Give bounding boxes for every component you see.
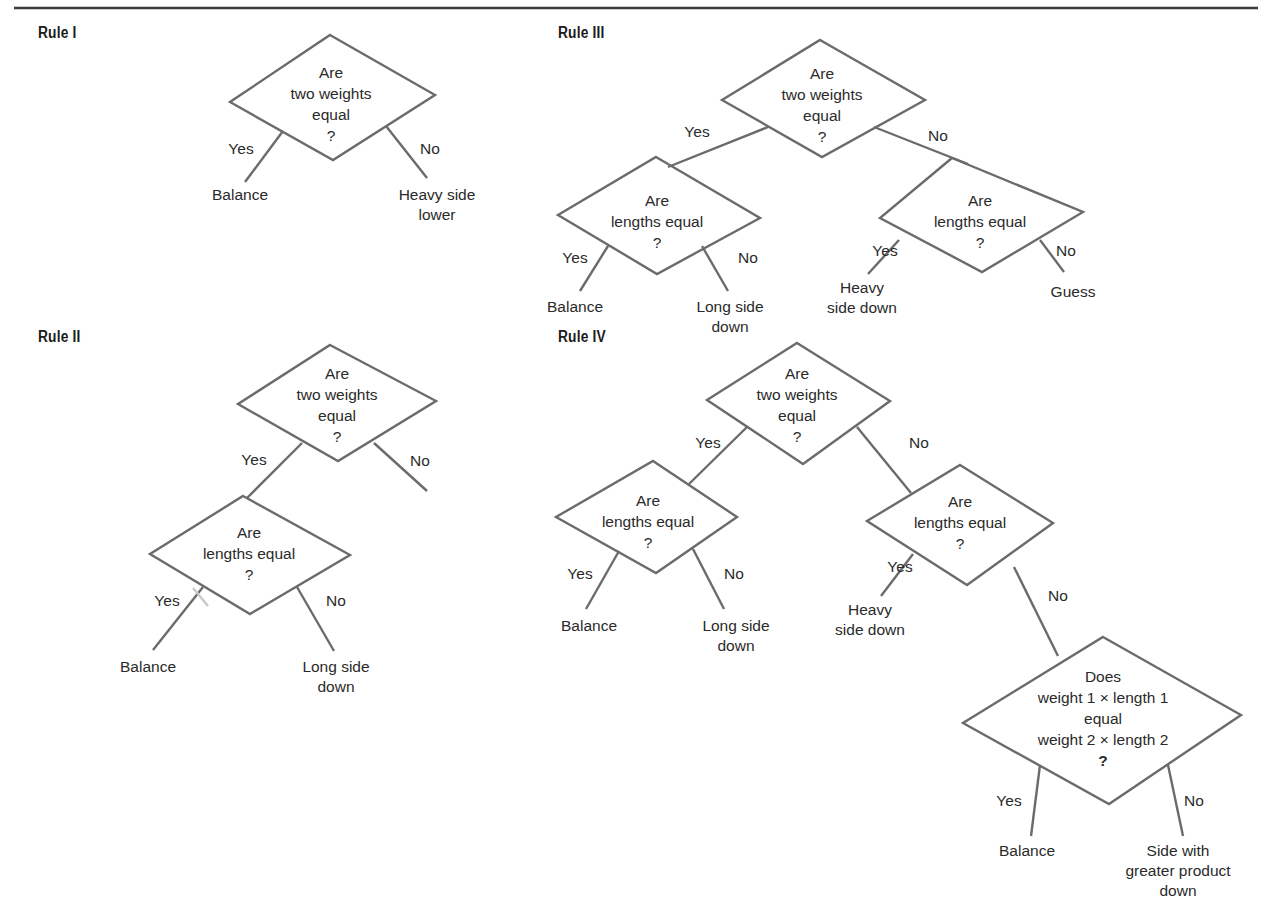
outcome-label-line: Heavy <box>840 279 884 296</box>
branch-label-yes: Yes <box>562 249 588 266</box>
branch-label-no: No <box>724 565 744 582</box>
decision-question-line: ? <box>956 535 965 552</box>
branch-connector <box>702 246 728 291</box>
branch-label-no: No <box>326 592 346 609</box>
decision-question-line: two weights <box>297 386 378 403</box>
decision-question-line: two weights <box>757 386 838 403</box>
decision-question-line: Are <box>810 65 834 82</box>
outcome-label-line: Balance <box>120 658 176 675</box>
rules-layer: YesNoAretwo weightsequal?BalanceHeavy si… <box>120 35 1241 899</box>
decision-question: Arelengths equal? <box>934 192 1026 251</box>
branch-label-yes: Yes <box>567 565 593 582</box>
decision-question-line: ? <box>644 534 653 551</box>
rule-1-title: Rule I <box>38 24 76 42</box>
decision-question-line: ? <box>245 566 254 583</box>
outcome-label-line: Balance <box>547 298 603 315</box>
decision-question-line: lengths equal <box>914 514 1006 531</box>
outcome-label: Balance <box>561 617 617 634</box>
decision-question-line: Are <box>785 365 809 382</box>
outcome-label: Long sidedown <box>696 298 763 335</box>
outcome-label-line: down <box>317 678 354 695</box>
outcome-label-line: down <box>1159 882 1196 899</box>
decision-question-line: lengths equal <box>602 513 694 530</box>
decision-question-line: Are <box>968 192 992 209</box>
outcome-label-line: side down <box>827 299 897 316</box>
decision-question-line: equal <box>318 407 356 424</box>
decision-question-line: Are <box>319 64 343 81</box>
decision-question-line: Are <box>325 365 349 382</box>
decision-question-line: lengths equal <box>934 213 1026 230</box>
decision-question: Arelengths equal? <box>602 492 694 551</box>
decision-question-line: ? <box>327 127 336 144</box>
outcome-label: Heavyside down <box>827 279 897 316</box>
outcome-label: Guess <box>1051 283 1096 300</box>
decision-question-line: ? <box>333 428 342 445</box>
outcome-label-line: lower <box>418 206 455 223</box>
outcome-label-line: Heavy side <box>399 186 476 203</box>
rule-2-tree: YesNoYesNoAretwo weightsequal?Arelengths… <box>120 345 436 695</box>
outcome-label-line: Balance <box>561 617 617 634</box>
outcome-label: Balance <box>547 298 603 315</box>
outcome-label: Balance <box>212 186 268 203</box>
outcome-label-line: side down <box>835 621 905 638</box>
branch-label-yes: Yes <box>684 123 710 140</box>
outcome-label-line: Long side <box>696 298 763 315</box>
branch-connector <box>668 127 768 167</box>
branch-connector <box>693 549 724 609</box>
decision-diamond-r4-weights <box>707 343 890 464</box>
outcome-label-line: Heavy <box>848 601 892 618</box>
outcome-label: Long sidedown <box>302 658 369 695</box>
decision-question-line: Does <box>1085 668 1121 685</box>
branch-label-yes: Yes <box>872 242 898 259</box>
outcome-label-line: down <box>711 318 748 335</box>
decision-tree-figure: YesNoAretwo weightsequal?BalanceHeavy si… <box>0 0 1270 920</box>
branch-connector <box>857 427 911 493</box>
outcome-label: Side withgreater productdown <box>1125 842 1231 899</box>
branch-label-no: No <box>928 127 948 144</box>
outcome-label-line: Balance <box>212 186 268 203</box>
branch-connector <box>1031 765 1040 836</box>
branch-label-no: No <box>1048 587 1068 604</box>
rule-3-tree: YesNoYesNoYesNoAretwo weightsequal?Arele… <box>547 40 1096 335</box>
rule-4-title: Rule IV <box>558 328 606 346</box>
outcome-label: Heavyside down <box>835 601 905 638</box>
rule-2-title: Rule II <box>38 328 81 346</box>
outcome-label-line: Guess <box>1051 283 1096 300</box>
decision-question-line: Are <box>948 493 972 510</box>
outcome-label: Long sidedown <box>702 617 769 654</box>
decision-question-line: equal <box>312 106 350 123</box>
outcome-label-line: Long side <box>702 617 769 634</box>
outcome-label: Balance <box>120 658 176 675</box>
decision-question-line: equal <box>803 107 841 124</box>
decision-question-line: ? <box>653 234 662 251</box>
branch-label-no: No <box>738 249 758 266</box>
branch-label-yes: Yes <box>887 558 913 575</box>
branch-label-no: No <box>410 452 430 469</box>
branch-label-no: No <box>1184 792 1204 809</box>
decision-question: Doesweight 1 × length 1equalweight 2 × l… <box>1037 668 1169 769</box>
decision-question-line: equal <box>778 407 816 424</box>
rule-1-tree: YesNoAretwo weightsequal?BalanceHeavy si… <box>212 35 475 223</box>
branch-label-yes: Yes <box>228 140 254 157</box>
decision-question-line: weight 1 × length 1 <box>1037 689 1169 706</box>
branch-label-no: No <box>1056 242 1076 259</box>
outcome-label-line: greater product <box>1125 862 1231 879</box>
decision-question: Aretwo weightsequal? <box>297 365 378 445</box>
decision-question-line: ? <box>1098 752 1107 769</box>
decision-question-line: two weights <box>782 86 863 103</box>
decision-question-line: two weights <box>291 85 372 102</box>
decision-question: Aretwo weightsequal? <box>291 64 372 144</box>
branch-connector <box>1168 765 1183 836</box>
decision-question-line: lengths equal <box>203 545 295 562</box>
outcome-label: Heavy sidelower <box>399 186 476 223</box>
rule-3-title: Rule III <box>558 24 604 42</box>
decision-question: Aretwo weightsequal? <box>757 365 838 445</box>
decision-question-line: Are <box>237 524 261 541</box>
decision-question-line: Are <box>636 492 660 509</box>
branch-connector <box>1014 567 1058 656</box>
decision-question: Arelengths equal? <box>611 192 703 251</box>
decision-question: Aretwo weightsequal? <box>782 65 863 145</box>
decision-question: Arelengths equal? <box>914 493 1006 552</box>
branch-label-no: No <box>420 140 440 157</box>
decision-question: Arelengths equal? <box>203 524 295 583</box>
